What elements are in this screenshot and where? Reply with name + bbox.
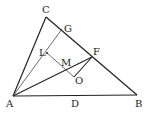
label-m: M [61, 57, 71, 68]
label-o: O [75, 75, 83, 86]
label-b: B [135, 98, 142, 109]
segment-ag [13, 29, 62, 96]
segment-of [74, 57, 92, 77]
segment-ab [13, 95, 137, 96]
label-l: L [39, 47, 46, 58]
label-c: C [42, 4, 50, 15]
label-d: D [71, 98, 79, 109]
label-g: G [64, 23, 72, 34]
point-l [46, 52, 48, 54]
diagram-svg: C G L F M O A D B [0, 0, 147, 114]
geometry-diagram: C G L F M O A D B [0, 0, 147, 114]
segment-bc [46, 17, 137, 95]
label-f: F [93, 46, 100, 57]
label-a: A [5, 98, 14, 109]
